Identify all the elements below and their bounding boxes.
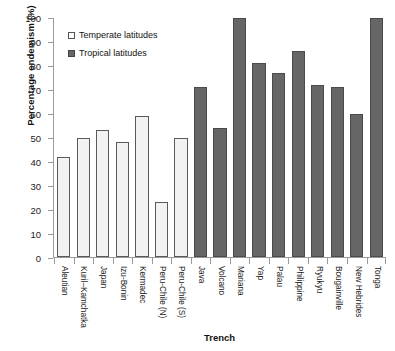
y-tick: 100 <box>48 18 53 19</box>
x-tick <box>54 258 74 264</box>
y-tick-label: 40 <box>30 157 41 168</box>
x-label-slot: Ryukyu <box>309 266 329 332</box>
y-tick-label: 70 <box>30 85 41 96</box>
x-axis-title: Trench <box>53 332 386 343</box>
x-tick-label: Peru-Chile (S) <box>177 266 185 318</box>
x-tick <box>152 258 172 264</box>
x-tick-label: Tonga <box>373 266 381 288</box>
y-tick: 30 <box>48 186 53 187</box>
x-label-slot: Palau <box>270 266 290 332</box>
y-tick-label: 80 <box>30 61 41 72</box>
x-label-slot: Peru-Chile (S) <box>172 266 192 332</box>
bar-slot <box>210 18 230 257</box>
legend-label: Tropical latitudes <box>79 48 147 58</box>
x-tick <box>347 258 367 264</box>
bar-slot <box>269 18 289 257</box>
x-label-slot: Kuril–Kamchatka <box>74 266 94 332</box>
x-tick-label: Peru-Chile (N) <box>158 266 166 318</box>
bar-slot <box>191 18 211 257</box>
bar-slot <box>230 18 250 257</box>
y-tick-label: 100 <box>25 13 41 24</box>
x-tick <box>74 258 94 264</box>
legend: Temperate latitudesTropical latitudes <box>68 30 158 66</box>
x-tick-label: Bougainville <box>334 266 342 310</box>
x-tick-label: Kuril–Kamchatka <box>79 266 87 328</box>
x-tick-label: Volcano <box>216 266 224 295</box>
x-label-slot: New Hebrides <box>348 266 368 332</box>
y-tick-label: 0 <box>36 253 41 264</box>
y-tick-label: 10 <box>30 229 41 240</box>
x-axis-ticks <box>54 258 386 264</box>
bar-chart: Percentage endemism (%) 0102030405060708… <box>0 0 395 351</box>
x-tick <box>367 258 387 264</box>
y-tick-label: 20 <box>30 205 41 216</box>
x-label-slot: Japan <box>93 266 113 332</box>
bar <box>57 157 70 257</box>
bar <box>194 87 207 257</box>
bar <box>77 138 90 258</box>
x-tick-label: Izu-Bonin <box>118 266 126 301</box>
legend-swatch-icon <box>68 50 75 57</box>
bar <box>252 63 265 257</box>
y-tick: 20 <box>48 210 53 211</box>
x-tick-label: Mariana <box>236 266 244 296</box>
legend-label: Temperate latitudes <box>79 30 158 40</box>
bar-slot <box>327 18 347 257</box>
x-tick <box>113 258 133 264</box>
bar <box>350 114 363 257</box>
bar-slot <box>171 18 191 257</box>
bar <box>135 116 148 257</box>
bar <box>116 142 129 257</box>
y-tick-label: 60 <box>30 109 41 120</box>
legend-item: Tropical latitudes <box>68 48 158 58</box>
x-label-slot: Kermadec <box>132 266 152 332</box>
x-tick-label: Ryukyu <box>314 266 322 293</box>
x-tick <box>327 258 347 264</box>
legend-item: Temperate latitudes <box>68 30 158 40</box>
x-label-slot: Aleutian <box>54 266 74 332</box>
bar-slot <box>367 18 387 257</box>
x-tick <box>132 258 152 264</box>
x-tick <box>269 258 289 264</box>
x-tick-label: Aleutian <box>60 266 68 296</box>
bar-slot <box>249 18 269 257</box>
x-tick-label: Yap <box>256 266 264 280</box>
y-tick: 60 <box>48 114 53 115</box>
x-tick-label: Palau <box>275 266 283 287</box>
bar <box>370 18 383 257</box>
x-tick <box>308 258 328 264</box>
bar-slot <box>347 18 367 257</box>
bar-slot <box>308 18 328 257</box>
bar <box>272 73 285 257</box>
bar <box>292 51 305 257</box>
x-tick-label: New Hebrides <box>354 266 362 317</box>
bar <box>96 130 109 257</box>
y-tick-label: 90 <box>30 37 41 48</box>
x-tick-label: Philippine <box>295 266 303 302</box>
y-tick: 70 <box>48 90 53 91</box>
bar <box>174 138 187 258</box>
y-tick-label: 30 <box>30 181 41 192</box>
x-tick <box>191 258 211 264</box>
x-tick <box>93 258 113 264</box>
x-tick <box>249 258 269 264</box>
y-tick: 40 <box>48 162 53 163</box>
bar <box>331 87 344 257</box>
x-tick <box>210 258 230 264</box>
x-label-slot: Java <box>191 266 211 332</box>
y-tick-label: 50 <box>30 133 41 144</box>
x-tick <box>288 258 308 264</box>
x-tick <box>230 258 250 264</box>
x-tick <box>171 258 191 264</box>
x-label-slot: Peru-Chile (N) <box>152 266 172 332</box>
y-tick: 10 <box>48 234 53 235</box>
bar-slot <box>288 18 308 257</box>
bar <box>233 18 246 257</box>
bar <box>155 202 168 257</box>
x-label-slot: Mariana <box>230 266 250 332</box>
x-label-slot: Bougainville <box>328 266 348 332</box>
y-tick: 50 <box>48 138 53 139</box>
bar <box>213 128 226 257</box>
y-tick: 0 <box>48 258 53 259</box>
legend-swatch-icon <box>68 32 75 39</box>
